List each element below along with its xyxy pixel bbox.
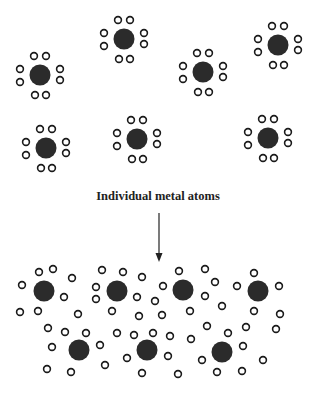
valence-electron: [140, 117, 147, 124]
metal-atom-nucleus: [258, 128, 279, 149]
delocalized-electron: [131, 332, 138, 339]
delocalized-electron: [49, 344, 56, 351]
delocalized-electron: [277, 311, 284, 318]
delocalized-electron: [150, 330, 157, 337]
arrow-head-icon: [156, 253, 163, 262]
delocalized-electron: [97, 342, 104, 349]
delocalized-electron: [276, 283, 283, 290]
valence-electron: [281, 23, 288, 30]
delocalized-electron: [234, 283, 241, 290]
delocalized-electron: [62, 329, 69, 336]
delocalized-electron: [136, 313, 143, 320]
valence-electron: [31, 53, 38, 60]
delocalized-electron: [35, 308, 42, 315]
valence-electron: [195, 89, 202, 96]
delocalized-electron: [124, 355, 131, 362]
valence-electron: [220, 63, 227, 70]
delocalized-electron: [176, 268, 183, 275]
valence-electron: [295, 47, 302, 54]
metal-atom-nucleus: [268, 35, 289, 56]
valence-electron: [63, 150, 70, 157]
valence-electron: [115, 17, 122, 24]
valence-electron: [114, 143, 121, 150]
valence-electron: [220, 74, 227, 81]
metal-atom-nucleus: [114, 29, 135, 50]
valence-electron: [23, 139, 30, 146]
valence-electron: [260, 155, 267, 162]
delocalized-electron: [44, 366, 51, 373]
delocalized-electron: [45, 325, 52, 332]
valence-electron: [141, 41, 148, 48]
metal-atom-nucleus: [36, 138, 57, 159]
metal-ion-nucleus: [107, 281, 128, 302]
valence-electron: [206, 50, 213, 57]
metal-ion-nucleus: [69, 340, 90, 361]
valence-electron: [17, 79, 24, 86]
valence-electron: [270, 62, 277, 69]
individual-metal-atoms-label: Individual metal atoms: [0, 189, 316, 204]
metal-atom-nucleus: [30, 65, 51, 86]
delocalized-electron: [165, 353, 172, 360]
valence-electron: [17, 66, 24, 73]
delocalized-electron: [188, 336, 195, 343]
delocalized-electron: [36, 269, 43, 276]
metal-ion-nucleus: [34, 281, 55, 302]
valence-electron: [101, 43, 108, 50]
valence-electron: [116, 56, 123, 63]
delocalized-electron: [225, 330, 232, 337]
delocalized-electron: [93, 296, 100, 303]
delocalized-electron: [61, 294, 68, 301]
valence-electron: [101, 30, 108, 37]
delocalized-electron: [17, 309, 24, 316]
valence-electron: [255, 36, 262, 43]
delocalized-electron: [273, 326, 280, 333]
delocalized-electron: [240, 343, 247, 350]
delocalized-electron: [219, 303, 226, 310]
delocalized-electron: [83, 330, 90, 337]
valence-electron: [245, 142, 252, 149]
valence-electron: [271, 116, 278, 123]
valence-electron: [180, 63, 187, 70]
metal-ion-nucleus: [173, 280, 194, 301]
delocalized-electron: [134, 294, 141, 301]
delocalized-electron: [260, 357, 267, 364]
valence-electron: [154, 130, 161, 137]
delocalized-electron: [212, 279, 219, 286]
delocalized-electron: [243, 324, 250, 331]
delocalized-electron: [159, 312, 166, 319]
valence-electron: [127, 17, 134, 24]
metal-ion-nucleus: [248, 281, 269, 302]
valence-electron: [295, 36, 302, 43]
valence-electron: [245, 129, 252, 136]
delocalized-electron: [69, 275, 76, 282]
delocalized-electron: [50, 266, 57, 273]
valence-electron: [38, 165, 45, 172]
delocalized-electron: [139, 274, 146, 281]
valence-electron: [259, 116, 266, 123]
delocalized-electron: [187, 308, 194, 315]
valence-electron: [129, 156, 136, 163]
valence-electron: [271, 155, 278, 162]
valence-electron: [49, 126, 56, 133]
metal-atom-nucleus: [127, 129, 148, 150]
delocalized-electron: [120, 269, 127, 276]
delocalized-electron: [68, 369, 75, 376]
valence-electron: [140, 156, 147, 163]
delocalized-electron: [160, 283, 167, 290]
valence-electron: [63, 139, 70, 146]
valence-electron: [23, 152, 30, 159]
valence-electron: [37, 126, 44, 133]
valence-electron: [114, 130, 121, 137]
delocalized-electron: [199, 357, 206, 364]
metal-atom-nucleus: [193, 62, 214, 83]
delocalized-electron: [19, 282, 26, 289]
delocalized-electron: [99, 267, 106, 274]
delocalized-electron: [152, 298, 159, 305]
valence-electron: [128, 117, 135, 124]
valence-electron: [180, 76, 187, 83]
valence-electron: [141, 30, 148, 37]
valence-electron: [285, 129, 292, 136]
delocalized-electron: [167, 333, 174, 340]
valence-electron: [154, 141, 161, 148]
delocalized-electron: [251, 270, 258, 277]
